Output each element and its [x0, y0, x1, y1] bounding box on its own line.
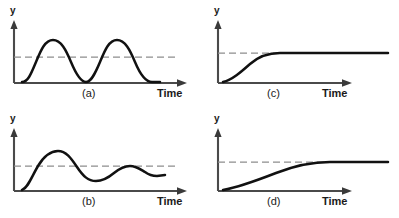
panel-c-y-axis-arrow [214, 20, 221, 29]
panel-a-y-axis-label: y [10, 6, 16, 16]
panel-d-caption: (d) [267, 196, 280, 207]
panel-b-y-axis-arrow [10, 128, 17, 137]
panel-c-caption: (c) [267, 88, 280, 99]
panel-d-x-axis-label: Time [322, 196, 347, 207]
panel-a-x-axis-label: Time [157, 88, 182, 99]
panel-b [10, 128, 187, 195]
panel-d-y-axis-label: y [214, 114, 220, 124]
panel-a-y-axis-arrow [10, 20, 17, 29]
panel-b-caption: (b) [82, 196, 95, 207]
figure-canvas [0, 0, 399, 218]
panel-b-response-curve [22, 151, 165, 190]
panel-c-x-axis-label: Time [322, 88, 347, 99]
panel-a-x-axis-arrow [177, 79, 187, 87]
panel-b-x-axis-label: Time [157, 196, 182, 207]
panel-d-response-curve [223, 162, 388, 190]
panel-c-response-curve [223, 53, 388, 82]
panel-a [10, 20, 187, 87]
panel-a-caption: (a) [82, 88, 95, 99]
panel-b-x-axis-arrow [177, 187, 187, 195]
panel-d [214, 128, 388, 195]
panel-c-x-axis-arrow [342, 79, 352, 87]
panel-d-x-axis-arrow [342, 187, 352, 195]
panel-d-y-axis-arrow [214, 128, 221, 137]
panel-a-response-curve [22, 40, 160, 82]
panel-c [214, 20, 388, 87]
panel-c-y-axis-label: y [214, 6, 220, 16]
panel-b-y-axis-label: y [10, 114, 16, 124]
figure-root: y Time (a) y Time (c) y Time (b) y Time … [0, 0, 399, 218]
